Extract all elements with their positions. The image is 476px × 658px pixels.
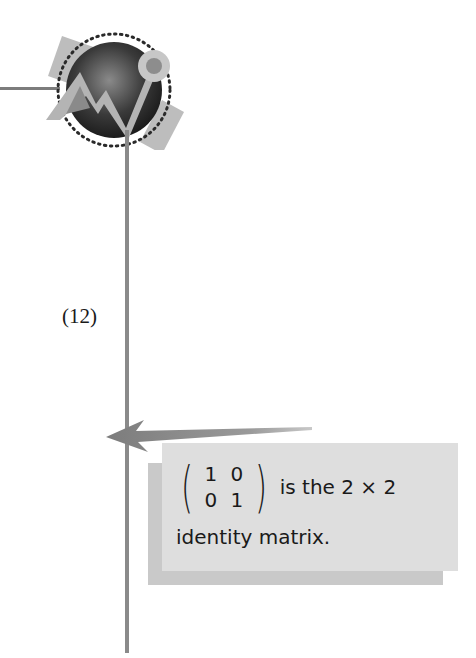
matrix-cell: 0: [198, 487, 224, 513]
identity-matrix: ( 1 0 0 1 ): [176, 459, 272, 515]
callout-first-line: ( 1 0 0 1 ) is the 2 × 2: [176, 455, 444, 519]
equation-number: (12): [62, 304, 97, 329]
right-paren: ): [255, 459, 267, 515]
bleed-through-text: [250, 40, 255, 60]
margin-note-callout: ( 1 0 0 1 ) is the 2 × 2 identity matrix…: [162, 443, 458, 571]
graphing-logo-icon: [44, 28, 186, 150]
matrix-cell: 0: [224, 461, 250, 487]
matrix-grid: 1 0 0 1: [198, 461, 250, 513]
matrix-cell: 1: [224, 487, 250, 513]
vertical-rule: [125, 130, 129, 653]
callout-text-line2: identity matrix.: [176, 525, 444, 549]
callout-text-line1: is the 2 × 2: [280, 475, 396, 499]
matrix-cell: 1: [198, 461, 224, 487]
left-paren: (: [181, 459, 193, 515]
